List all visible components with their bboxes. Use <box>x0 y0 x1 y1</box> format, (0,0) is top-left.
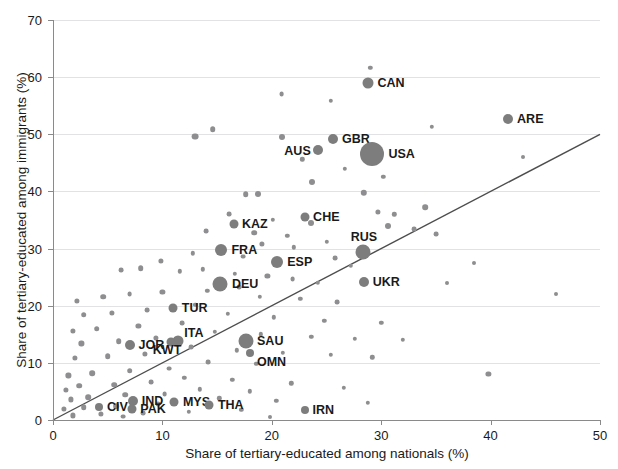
data-point-kaz[interactable] <box>229 220 238 229</box>
data-point <box>101 294 107 300</box>
data-point-label-ita: ITA <box>184 326 203 340</box>
data-point-pak[interactable] <box>127 405 136 414</box>
x-axis-title: Share of tertiary-educated among nationa… <box>53 446 601 461</box>
data-point <box>279 134 285 140</box>
data-point <box>554 292 558 296</box>
data-point-omn[interactable] <box>246 349 254 357</box>
data-point-label-tur: TUR <box>182 301 208 315</box>
data-point <box>122 392 128 398</box>
data-point-label-fra: FRA <box>231 243 257 257</box>
x-tick-label-10: 10 <box>155 428 169 443</box>
data-point <box>118 268 123 273</box>
data-point-sau[interactable] <box>238 334 253 349</box>
x-tick-label-0: 0 <box>49 428 56 443</box>
data-point-label-pak: PAK <box>140 402 165 416</box>
data-point-ukr[interactable] <box>359 277 369 287</box>
data-point <box>412 227 417 232</box>
data-point <box>121 414 126 419</box>
x-tick-label-20: 20 <box>265 428 279 443</box>
data-point <box>255 191 261 197</box>
data-point-deu[interactable] <box>213 277 228 292</box>
data-point <box>94 326 100 332</box>
data-point <box>76 383 82 389</box>
data-point <box>204 229 209 234</box>
x-tick-20 <box>272 420 273 425</box>
data-point <box>433 231 438 236</box>
data-point-mys[interactable] <box>170 397 179 406</box>
data-point <box>521 155 525 159</box>
data-point-usa[interactable] <box>360 142 384 166</box>
data-point <box>81 312 87 318</box>
data-point <box>81 405 87 411</box>
data-point <box>111 382 117 388</box>
data-point-label-tha: THA <box>218 398 244 412</box>
data-point-are[interactable] <box>503 114 513 124</box>
data-point <box>127 368 133 374</box>
data-point-label-jor: JOR <box>139 338 165 352</box>
data-point-tur[interactable] <box>169 304 178 313</box>
y-tick-40 <box>48 191 53 192</box>
y-tick-30 <box>48 249 53 250</box>
data-point-aus[interactable] <box>313 145 323 155</box>
x-axis-line <box>53 420 601 421</box>
data-point-esp[interactable] <box>271 256 283 268</box>
data-point <box>243 191 249 197</box>
data-point <box>138 265 144 271</box>
data-point <box>268 415 272 419</box>
data-point <box>127 292 132 297</box>
data-point <box>309 179 315 185</box>
data-point-label-civ: CIV <box>107 400 128 414</box>
data-point-irn[interactable] <box>301 406 309 414</box>
x-tick-40 <box>491 420 492 425</box>
data-point-label-esp: ESP <box>287 255 312 269</box>
data-point-che[interactable] <box>300 212 309 221</box>
y-tick-50 <box>48 134 53 135</box>
data-point-label-irn: IRN <box>313 403 335 417</box>
x-tick-label-40: 40 <box>483 428 497 443</box>
data-point-label-sau: SAU <box>257 334 283 348</box>
data-point-jor[interactable] <box>125 340 135 350</box>
data-point-label-omn: OMN <box>257 355 286 369</box>
x-tick-label-30: 30 <box>374 428 388 443</box>
data-point <box>149 380 154 385</box>
data-point <box>335 300 340 305</box>
data-point <box>385 223 391 229</box>
data-point <box>145 308 150 313</box>
data-point <box>167 366 172 371</box>
scatter-chart-figure: CANAREGBRAUSUSACHEKAZFRARUSESPUKRDEUTURI… <box>0 0 618 469</box>
data-point-rus[interactable] <box>355 245 370 260</box>
data-point <box>206 359 211 364</box>
y-tick-70 <box>48 20 53 21</box>
y-tick-10 <box>48 363 53 364</box>
y-tick-20 <box>48 306 53 307</box>
data-point <box>90 370 96 376</box>
data-point <box>472 261 476 265</box>
y-tick-60 <box>48 77 53 78</box>
data-point <box>116 338 122 344</box>
data-point <box>422 205 428 211</box>
data-point <box>445 281 449 285</box>
plot-area: CANAREGBRAUSUSACHEKAZFRARUSESPUKRDEUTURI… <box>53 20 600 420</box>
data-point-label-can: CAN <box>378 76 405 90</box>
x-tick-label-50: 50 <box>593 428 607 443</box>
data-point-label-deu: DEU <box>232 277 258 291</box>
data-point-civ[interactable] <box>95 403 103 411</box>
x-tick-0 <box>53 420 54 425</box>
y-tick-0 <box>48 420 53 421</box>
x-tick-30 <box>381 420 382 425</box>
x-tick-10 <box>162 420 163 425</box>
y-axis-line <box>53 20 54 421</box>
data-point <box>333 255 338 260</box>
data-point-gbr[interactable] <box>328 134 338 144</box>
data-point-label-usa: USA <box>388 147 414 161</box>
data-point <box>188 344 193 349</box>
data-point-fra[interactable] <box>215 244 227 256</box>
data-point-can[interactable] <box>363 77 374 88</box>
data-point <box>105 353 111 359</box>
data-point-tha[interactable] <box>205 401 214 410</box>
data-point-label-rus: RUS <box>351 230 377 244</box>
data-point-label-kaz: KAZ <box>242 217 268 231</box>
x-tick-50 <box>600 420 601 425</box>
data-point-label-aus: AUS <box>284 144 310 158</box>
data-point <box>210 126 216 132</box>
